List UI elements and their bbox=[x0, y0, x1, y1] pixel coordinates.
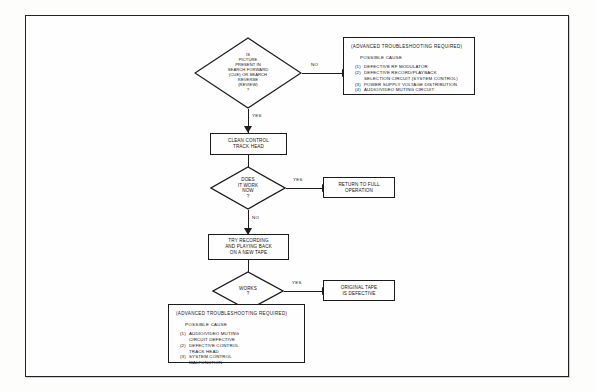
edge-label-d2-yes: YES bbox=[293, 177, 303, 182]
cause-item-number: (3) bbox=[180, 354, 189, 360]
cause-item-text: SYSTEM CONTROL MALFUNCTION bbox=[189, 354, 297, 365]
cause-box-bottom-item: (2) DEFECTIVE CONTROL TRACK HEAD bbox=[180, 343, 297, 354]
d1-line-8: ? bbox=[228, 88, 269, 93]
edge-d1-to-cause-top bbox=[302, 73, 343, 74]
cause-box-top-item: (4) AUDIO/VIDEO MUTING CIRCUIT bbox=[355, 87, 467, 93]
cause-box-bottom-item: (1) AUDIO/VIDEO MUTING CIRCUIT DEFECTIVE bbox=[180, 331, 297, 342]
cause-item-number: (2) bbox=[355, 70, 364, 76]
process-node-clean-control-track-head: CLEAN CONTROL TRACK HEAD bbox=[210, 133, 287, 155]
edge-d2-to-terminator1 bbox=[286, 188, 323, 189]
cause-box-top-subtitle: POSSIBLE CAUSE bbox=[360, 55, 467, 61]
flowchart-page: IS PICTURE PRESENT IN SEARCH FORWARD (CU… bbox=[0, 0, 596, 392]
cause-item-text: AUDIO/VIDEO MUTING CIRCUIT bbox=[364, 87, 467, 93]
cause-box-top-item: (2) DEFECTIVE RECORD/PLAYBACK SELECTION … bbox=[355, 70, 467, 81]
edge-label-d1-no: NO bbox=[311, 62, 318, 67]
cause-item-text: AUDIO/VIDEO MUTING CIRCUIT DEFECTIVE bbox=[189, 331, 297, 342]
cause-box-bottom-title: (ADVANCED TROUBLESHOOTING REQUIRED) bbox=[176, 311, 297, 317]
cause-item-text: DEFECTIVE CONTROL TRACK HEAD bbox=[189, 343, 297, 354]
cause-item-number: (2) bbox=[180, 343, 189, 349]
edge-label-d3-yes: YES bbox=[292, 280, 302, 285]
decision-node-does-it-work: DOES IT WORK NOW ? bbox=[210, 166, 286, 210]
cause-box-bottom-subtitle: POSSIBLE CAUSE bbox=[185, 322, 297, 328]
edge-d3-to-terminator2 bbox=[284, 291, 323, 292]
terminator-node-return-to-full-operation: RETURN TO FULL OPERATION bbox=[323, 177, 395, 198]
cause-item-text: DEFECTIVE RECORD/PLAYBACK SELECTION CIRC… bbox=[364, 70, 467, 81]
terminator-node-original-tape-defective: ORIGINAL TAPE IS DEFECTIVE bbox=[323, 280, 395, 301]
cause-item-number: (4) bbox=[355, 87, 364, 93]
edge-label-d1-yes: YES bbox=[252, 113, 262, 118]
arrowhead-d1-to-process1-icon bbox=[244, 126, 252, 133]
diagram-frame: IS PICTURE PRESENT IN SEARCH FORWARD (CU… bbox=[25, 15, 569, 377]
cause-box-top-list: (1) DEFECTIVE RF MODULATOR (2) DEFECTIVE… bbox=[355, 64, 467, 93]
cause-box-bottom: (ADVANCED TROUBLESHOOTING REQUIRED) POSS… bbox=[168, 304, 305, 363]
decision-node-search-picture: IS PICTURE PRESENT IN SEARCH FORWARD (CU… bbox=[194, 37, 302, 109]
decision-node-search-picture-label: IS PICTURE PRESENT IN SEARCH FORWARD (CU… bbox=[194, 37, 302, 109]
decision-node-does-it-work-label: DOES IT WORK NOW ? bbox=[210, 166, 286, 210]
cause-item-number: (1) bbox=[180, 331, 189, 337]
cause-box-bottom-item: (3) SYSTEM CONTROL MALFUNCTION bbox=[180, 354, 297, 365]
cause-box-bottom-list: (1) AUDIO/VIDEO MUTING CIRCUIT DEFECTIVE… bbox=[180, 331, 297, 365]
process-node-try-recording-new-tape: TRY RECORDING AND PLAYING BACK ON A NEW … bbox=[208, 234, 289, 260]
cause-box-top: (ADVANCED TROUBLESHOOTING REQUIRED) POSS… bbox=[343, 37, 475, 95]
edge-label-d2-no: NO bbox=[252, 215, 259, 220]
cause-box-top-title: (ADVANCED TROUBLESHOOTING REQUIRED) bbox=[351, 44, 467, 50]
